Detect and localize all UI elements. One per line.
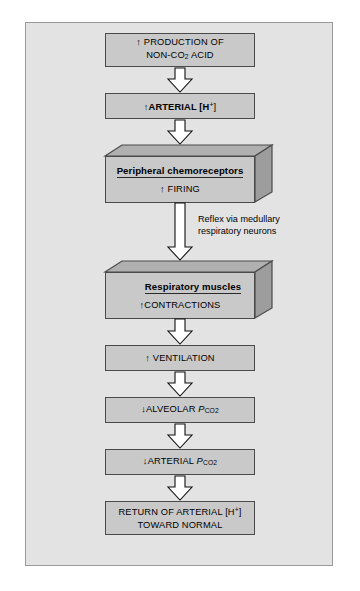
node-arterial-h-text: ↑ARTERIAL [H+] — [144, 102, 216, 112]
caption-reflex-line2: respiratory neurons — [198, 226, 276, 236]
node-production-line1: ↑ PRODUCTION OF — [136, 37, 223, 47]
node-increased-ventilation: ↑ VENTILATION — [105, 345, 255, 371]
arrow-ventilation-to-alveolar-pco2 — [167, 372, 193, 397]
node-return-of-arterial-h-toward-normal: RETURN OF ARTERIAL [H+] TOWARD NORMAL — [105, 501, 255, 535]
node-return-line1: RETURN OF ARTERIAL [H+] — [118, 507, 241, 517]
node-decreased-arterial-pco2: ↓ARTERIAL PCO2 — [105, 449, 255, 475]
node-production-line2: NON-CO2 ACID — [146, 50, 214, 60]
block3d-front-face: Respiratory muscles ↑CONTRACTIONS — [105, 272, 255, 319]
arrow-chemoreceptors-to-muscles — [167, 203, 193, 261]
node-respiratory-muscles-sub: ↑CONTRACTIONS — [140, 300, 221, 310]
node-production-of-non-co2-acid: ↑ PRODUCTION OF NON-CO2 ACID — [105, 33, 255, 67]
node-peripheral-chemoreceptors: Peripheral chemoreceptors ↑ FIRING — [105, 145, 273, 203]
node-alveolar-pco2-text: ↓ALVEOLAR PCO2 — [141, 404, 219, 414]
node-ventilation-text: ↑ VENTILATION — [145, 353, 214, 363]
diagram-frame: ↑ PRODUCTION OF NON-CO2 ACID ↑ARTERIAL [… — [25, 22, 333, 566]
node-return-line2: TOWARD NORMAL — [137, 520, 222, 530]
arrow-alveolar-to-arterial-pco2 — [167, 424, 193, 449]
caption-reflex-via-medullary: Reflex via medullary respiratory neurons — [198, 214, 280, 237]
caption-reflex-line1: Reflex via medullary — [198, 214, 280, 224]
node-respiratory-muscles: Respiratory muscles ↑CONTRACTIONS — [105, 261, 273, 319]
node-decreased-alveolar-pco2: ↓ALVEOLAR PCO2 — [105, 397, 255, 423]
node-respiratory-muscles-title: Respiratory muscles — [145, 281, 241, 294]
flowchart: ↑ PRODUCTION OF NON-CO2 ACID ↑ARTERIAL [… — [26, 23, 332, 565]
node-increased-arterial-h: ↑ARTERIAL [H+] — [105, 93, 255, 119]
arrow-arterial-pco2-to-return — [167, 476, 193, 501]
node-arterial-pco2-text: ↓ARTERIAL PCO2 — [143, 456, 217, 466]
arrow-arterial-h-to-chemoreceptors — [167, 120, 193, 145]
block3d-front-face: Peripheral chemoreceptors ↑ FIRING — [105, 156, 255, 203]
arrow-muscles-to-ventilation — [167, 319, 193, 345]
node-peripheral-chemoreceptors-sub: ↑ FIRING — [160, 184, 200, 194]
node-peripheral-chemoreceptors-title: Peripheral chemoreceptors — [117, 165, 244, 178]
arrow-production-to-arterial-h — [167, 68, 193, 93]
